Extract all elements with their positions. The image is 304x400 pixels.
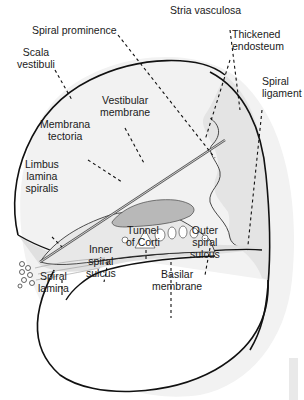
label-tunnel-of-corti: Tunnel of Corti xyxy=(126,224,160,248)
label-limbus-lamina-spiralis: Limbus lamina spiralis xyxy=(25,158,59,194)
label-scala-vestibuli: Scala vestibuli xyxy=(17,46,55,70)
label-inner-spiral-sulcus: Inner spiral sulcus xyxy=(86,243,116,279)
label-membrana-tectoria: Membrana tectoria xyxy=(40,118,90,142)
cochlea-diagram: Stria vasculosa Spiral prominence Thicke… xyxy=(0,0,304,400)
label-basilar-membrane: Basilar membrane xyxy=(152,268,202,292)
label-spiral-lamina: Spiral lamina xyxy=(38,270,69,294)
label-thickened-endosteum: Thickened endosteum xyxy=(232,28,284,52)
edge-strip xyxy=(289,358,298,400)
label-outer-spiral-sulcus: Outer spiral sulcus xyxy=(190,224,220,260)
label-spiral-prominence: Spiral prominence xyxy=(32,24,117,36)
label-spiral-ligament: Spiral ligament xyxy=(262,75,302,99)
label-stria-vasculosa: Stria vasculosa xyxy=(170,4,241,16)
label-vestibular-membrane: Vestibular membrane xyxy=(100,94,150,118)
